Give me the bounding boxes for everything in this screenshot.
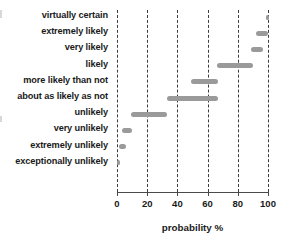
plot-area <box>117 10 268 192</box>
category-axis-labels: virtually certainextremely likelyvery li… <box>0 8 112 190</box>
x-axis-tick <box>208 192 209 196</box>
range-bar <box>167 96 218 101</box>
gridline <box>147 10 148 192</box>
gridline <box>208 10 209 192</box>
x-axis-tick-label: 40 <box>162 198 192 209</box>
probability-likelihood-chart: virtually certainextremely likelyvery li… <box>0 0 288 245</box>
range-bar <box>119 144 127 149</box>
x-axis-tick-label: 20 <box>132 198 162 209</box>
x-axis-tick-label: 0 <box>102 198 132 209</box>
category-label: very likely <box>0 42 108 52</box>
range-bar <box>256 31 268 36</box>
category-label: more likely than not <box>0 75 108 85</box>
x-axis-tick <box>268 192 269 196</box>
x-axis-tick <box>177 192 178 196</box>
x-axis-title: probability % <box>117 222 268 233</box>
range-bar <box>251 47 263 52</box>
category-label: extremely likely <box>0 26 108 36</box>
x-axis-tick <box>147 192 148 196</box>
x-axis-tick-label: 80 <box>223 198 253 209</box>
range-bar <box>217 63 253 68</box>
x-axis-tick <box>117 192 118 196</box>
category-label: exceptionally unlikely <box>0 156 108 166</box>
category-label: unlikely <box>0 107 108 117</box>
range-bar <box>117 160 120 165</box>
gridline <box>238 10 239 192</box>
category-label: virtually certain <box>0 10 108 20</box>
range-bar <box>266 15 269 20</box>
x-axis-line <box>117 192 268 193</box>
category-label: likely <box>0 59 108 69</box>
range-bar <box>122 128 133 133</box>
category-label: about as likely as not <box>0 91 108 101</box>
category-label: very unlikely <box>0 123 108 133</box>
x-axis-tick-label: 60 <box>193 198 223 209</box>
category-label: extremely unlikely <box>0 140 108 150</box>
gridline <box>268 10 269 192</box>
range-bar <box>191 79 218 84</box>
x-axis-tick-label: 100 <box>253 198 283 209</box>
x-axis-tick <box>238 192 239 196</box>
gridline <box>177 10 178 192</box>
range-bar <box>131 112 167 117</box>
